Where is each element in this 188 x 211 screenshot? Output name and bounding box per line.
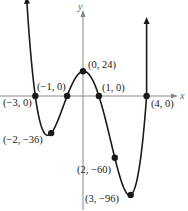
point-label: (0, 24) xyxy=(88,60,116,71)
point-label: (−1, 0) xyxy=(37,82,66,93)
point-label: (−3, 0) xyxy=(3,98,32,109)
data-point xyxy=(48,130,54,136)
point-label: (2, −60) xyxy=(77,165,111,176)
point-label: (4, 0) xyxy=(151,99,174,110)
data-point xyxy=(143,93,149,99)
data-point xyxy=(80,68,86,74)
polynomial-graph: x y (−3, 0)(−2, −36)(−1, 0)(0, 24)(1, 0)… xyxy=(0,0,188,211)
data-point xyxy=(112,155,118,161)
point-label: (3, −96) xyxy=(85,194,119,205)
data-point xyxy=(96,93,102,99)
y-axis-label: y xyxy=(78,2,83,13)
x-axis-label: x xyxy=(180,91,185,102)
point-label: (1, 0) xyxy=(102,83,125,94)
point-label: (−2, −36) xyxy=(3,135,43,146)
data-point xyxy=(128,192,134,198)
data-point xyxy=(32,93,38,99)
data-point xyxy=(64,93,70,99)
